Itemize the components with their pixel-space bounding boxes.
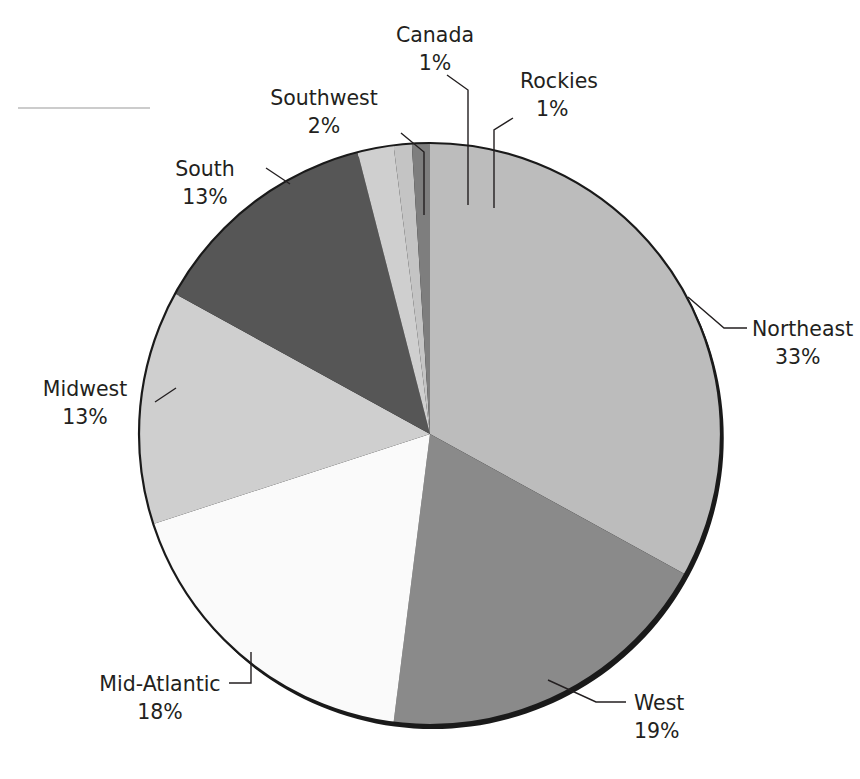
- label-south-value: 13%: [182, 185, 228, 209]
- label-northeast-value: 33%: [775, 345, 821, 369]
- label-mid-atlantic-value: 18%: [137, 700, 183, 724]
- leader-line-south: [266, 168, 290, 184]
- label-canada-value: 1%: [419, 51, 452, 75]
- label-northeast-name: Northeast: [752, 317, 853, 341]
- label-southwest-name: Southwest: [270, 86, 378, 110]
- label-west-value: 19%: [634, 719, 680, 743]
- pie-chart-svg: Canada 1% Rockies 1% Southwest 2% South …: [0, 0, 860, 779]
- label-west-name: West: [634, 691, 684, 715]
- label-south-name: South: [175, 157, 235, 181]
- label-rockies-value: 1%: [536, 97, 569, 121]
- label-midwest-value: 13%: [62, 405, 108, 429]
- label-midwest-name: Midwest: [43, 377, 128, 401]
- label-rockies-name: Rockies: [520, 69, 598, 93]
- pie-slices: [139, 143, 724, 729]
- label-southwest-value: 2%: [308, 114, 341, 138]
- label-mid-atlantic-name: Mid-Atlantic: [99, 672, 220, 696]
- pie-chart-container: Canada 1% Rockies 1% Southwest 2% South …: [0, 0, 860, 779]
- label-canada-name: Canada: [396, 23, 474, 47]
